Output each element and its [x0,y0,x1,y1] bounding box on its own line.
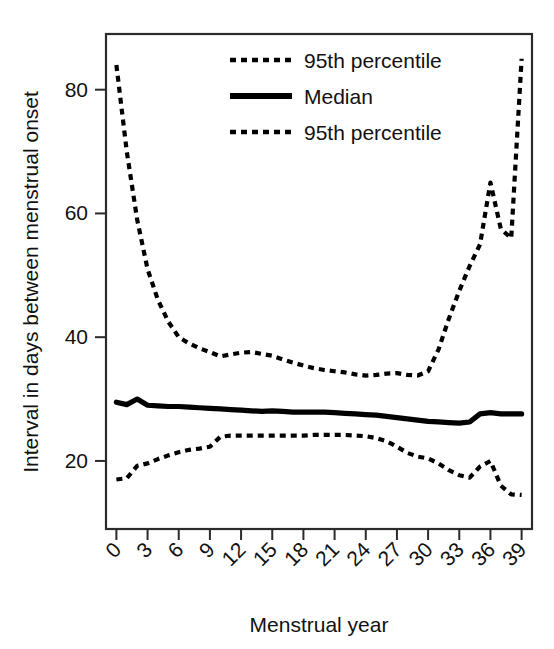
chart-legend: 95th percentileMedian95th percentile [230,49,442,144]
legend-label: Median [304,85,373,108]
y-axis-title: Interval in days between menstrual onset [19,91,42,473]
line-chart: 20406080 036912151821242730333639 95th p… [0,0,554,649]
y-tick-label: 80 [65,78,88,101]
y-axis: 20406080 [65,78,106,472]
plot-frame [106,34,532,529]
x-tick-label: 21 [311,538,344,571]
x-tick-label: 9 [194,538,219,563]
y-tick-label: 40 [65,325,88,348]
x-tick-label: 36 [466,538,499,571]
x-tick-label: 27 [373,538,406,571]
y-tick-label: 60 [65,201,88,224]
y-tick-label: 20 [65,449,88,472]
x-tick-label: 39 [498,538,531,571]
x-tick-label: 0 [101,538,126,563]
x-axis-title: Menstrual year [250,613,389,636]
x-tick-label: 24 [342,537,375,570]
legend-label: 95th percentile [304,121,442,144]
series-line-lower [116,435,521,495]
legend-label: 95th percentile [304,49,442,72]
x-tick-label: 6 [163,538,188,563]
x-tick-label: 30 [404,538,437,571]
x-axis: 036912151821242730333639 [101,529,531,570]
x-tick-label: 15 [248,538,281,571]
x-tick-label: 33 [435,538,468,571]
x-tick-label: 3 [132,538,157,563]
chart-figure: 20406080 036912151821242730333639 95th p… [0,0,554,649]
x-tick-label: 12 [217,538,250,571]
x-tick-label: 18 [279,538,312,571]
series-line-middle [116,399,521,423]
